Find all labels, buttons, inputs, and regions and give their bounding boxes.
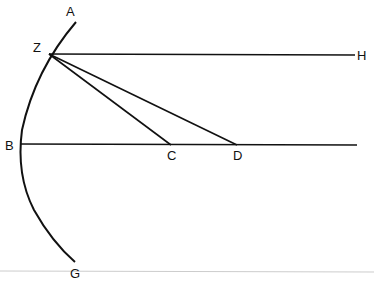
- label-H: H: [357, 48, 366, 63]
- label-D: D: [233, 148, 242, 163]
- line-ZC: [49, 54, 171, 145]
- label-Z: Z: [33, 40, 41, 55]
- label-A: A: [66, 4, 75, 19]
- arc-ABG: [21, 22, 77, 262]
- label-B: B: [5, 138, 14, 153]
- label-C: C: [167, 148, 176, 163]
- page-divider: [0, 271, 374, 272]
- line-ZH: [49, 54, 355, 55]
- label-G: G: [70, 266, 80, 281]
- line-ZD: [49, 54, 237, 145]
- geometry-diagram: A Z H B C D G: [0, 0, 374, 286]
- line-BD: [20, 144, 357, 145]
